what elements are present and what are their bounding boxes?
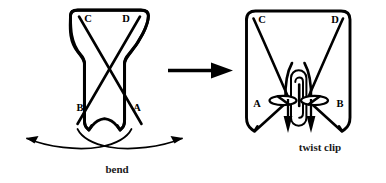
clipped-shape-outline-left [247, 20, 258, 132]
bow-outline-lower-left [84, 63, 91, 130]
label-left-c: C [84, 13, 92, 24]
left-panel-group: C D B A [70, 10, 148, 130]
label-left-a: A [133, 102, 141, 113]
caption-twist-clip: twist clip [299, 141, 341, 153]
down-arrow-right-head [307, 116, 316, 133]
process-arrow-head [211, 63, 233, 79]
label-left-d: D [122, 13, 130, 24]
label-left-b: B [76, 102, 83, 113]
bend-and-twist-clip-diagram: C D B A bend [0, 0, 386, 183]
down-arrow-left-head [284, 116, 293, 133]
strand-right-c [254, 19, 289, 99]
label-right-b: B [336, 98, 343, 109]
label-right-c: C [258, 14, 266, 25]
bow-outline-lower-right [117, 63, 124, 130]
caption-bend: bend [105, 163, 128, 175]
strand-right-d [308, 19, 343, 99]
figure-root: C D B A bend [0, 0, 386, 183]
right-panel-group: C D A B twist clip [247, 11, 351, 153]
label-right-a: A [253, 98, 261, 109]
process-arrow-group [168, 63, 233, 79]
bend-arrows-group: bend [26, 129, 183, 175]
label-right-d: D [331, 14, 339, 25]
